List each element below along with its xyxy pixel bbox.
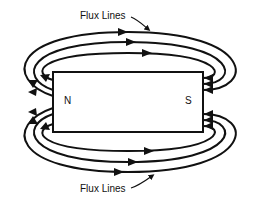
south-pole-label: S [185, 95, 192, 106]
bottom-leader-arrow [131, 176, 152, 188]
flux-diagram: N S Flux Lines [0, 0, 270, 200]
north-pole-label: N [64, 95, 71, 106]
top-leader-arrow [131, 17, 148, 29]
bottom-flux-label: Flux Lines [80, 183, 126, 194]
top-flux-label: Flux Lines [80, 10, 126, 21]
bar-magnet [53, 72, 203, 132]
